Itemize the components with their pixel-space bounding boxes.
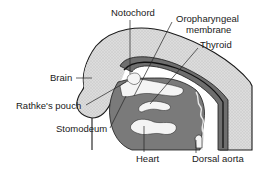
label-oropharyngeal-2: membrane [186, 24, 231, 35]
label-dorsal-aorta: Dorsal aorta [192, 153, 244, 164]
embryo-diagram: Notochord Oropharyngeal membrane Thyroid… [0, 0, 260, 174]
label-oropharyngeal-1: Oropharyngeal [176, 13, 239, 24]
label-heart: Heart [136, 153, 160, 164]
label-rathke: Rathke's pouch [16, 100, 81, 111]
label-stomodeum: Stomodeum [56, 123, 107, 134]
label-thyroid: Thyroid [200, 39, 232, 50]
label-notochord: Notochord [111, 7, 155, 18]
label-brain: Brain [50, 72, 72, 83]
